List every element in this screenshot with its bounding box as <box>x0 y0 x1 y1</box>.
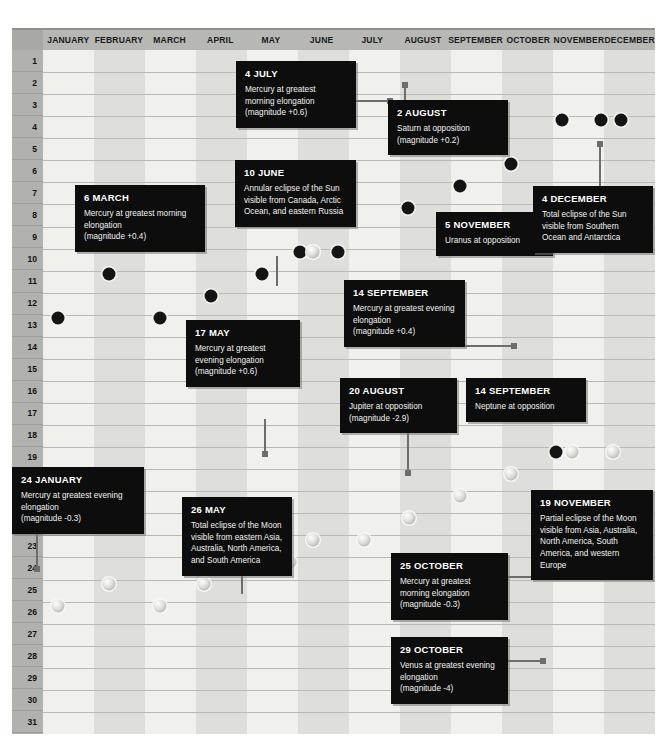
event-callout-dec-4[interactable]: 4 DECEMBERTotal eclipse of the Sun visib… <box>533 186 653 253</box>
event-callout-sep-14-mercury[interactable]: 14 SEPTEMBERMercury at greatest evening … <box>344 280 465 347</box>
full-moon-icon <box>358 534 371 547</box>
event-magnitude: (magnitude +0.4) <box>84 231 196 243</box>
day-number-23: 23 <box>12 535 43 557</box>
month-header-june: JUNE <box>296 30 347 50</box>
event-description: Venus at greatest evening elongation <box>400 660 499 683</box>
event-date-title: 26 MAY <box>191 504 283 515</box>
month-header-row: JANUARYFEBRUARYMARCHAPRILMAYJUNEJULYAUGU… <box>12 28 655 50</box>
new-moon-icon <box>595 114 608 127</box>
event-callout-may-26[interactable]: 26 MAYTotal eclipse of the Moon visible … <box>182 497 292 576</box>
event-callout-aug-2[interactable]: 2 AUGUSTSaturn at opposition(magnitude +… <box>388 100 508 155</box>
day-number-1: 1 <box>12 50 43 72</box>
day-number-19: 19 <box>12 447 43 469</box>
day-number-7: 7 <box>12 182 43 204</box>
day-number-3: 3 <box>12 94 43 116</box>
day-number-30: 30 <box>12 689 43 711</box>
event-callout-jun-10[interactable]: 10 JUNEAnnular eclipse of the Sun visibl… <box>235 160 356 227</box>
full-moon-icon <box>505 468 518 481</box>
event-date-title: 25 OCTOBER <box>400 560 499 571</box>
new-moon-icon <box>615 114 628 127</box>
full-moon-icon <box>566 446 579 459</box>
leader-line <box>407 427 409 473</box>
day-number-2: 2 <box>12 72 43 94</box>
header-corner-cell <box>12 30 43 50</box>
full-moon-icon <box>403 512 416 525</box>
day-number-27: 27 <box>12 623 43 645</box>
event-callout-jul-4[interactable]: 4 JULYMercury at greatest morning elonga… <box>236 61 356 128</box>
event-date-title: 4 JULY <box>245 68 347 79</box>
month-header-december: DECEMBER <box>604 30 655 50</box>
event-description: Uranus at opposition <box>445 235 544 247</box>
event-date-title: 14 SEPTEMBER <box>475 385 577 396</box>
event-callout-sep-14-neptune[interactable]: 14 SEPTEMBERNeptune at opposition <box>466 378 586 422</box>
day-number-25: 25 <box>12 579 43 601</box>
event-date-title: 10 JUNE <box>244 167 347 178</box>
event-magnitude: (magnitude +0.6) <box>245 107 347 119</box>
event-date-title: 6 MARCH <box>84 192 196 203</box>
day-number-9: 9 <box>12 226 43 248</box>
leader-endpoint-marker <box>597 141 603 147</box>
event-magnitude: (magnitude -4) <box>400 683 499 695</box>
day-number-12: 12 <box>12 293 43 315</box>
event-callout-oct-29[interactable]: 29 OCTOBERVenus at greatest evening elon… <box>391 637 508 704</box>
event-description: Total eclipse of the Moon visible from e… <box>191 520 283 567</box>
event-description: Mercury at greatest evening elongation <box>21 490 135 513</box>
month-header-april: APRIL <box>195 30 246 50</box>
leader-endpoint-marker <box>262 451 268 457</box>
month-header-may: MAY <box>246 30 297 50</box>
full-moon-icon <box>154 600 167 613</box>
new-moon-icon <box>505 158 518 171</box>
day-number-26: 26 <box>12 601 43 623</box>
month-header-march: MARCH <box>144 30 195 50</box>
full-moon-icon <box>103 578 116 591</box>
month-column-december <box>604 50 655 734</box>
month-header-july: JULY <box>347 30 398 50</box>
day-number-15: 15 <box>12 359 43 381</box>
new-moon-icon <box>294 246 307 259</box>
day-number-4: 4 <box>12 116 43 138</box>
event-date-title: 14 SEPTEMBER <box>353 287 456 298</box>
month-header-august: AUGUST <box>398 30 449 50</box>
month-header-november: NOVEMBER <box>554 30 605 50</box>
day-number-column: 1234567891011121314151617181920212223242… <box>12 50 43 734</box>
full-moon-icon <box>52 600 65 613</box>
event-date-title: 17 MAY <box>195 327 291 338</box>
event-callout-oct-25[interactable]: 25 OCTOBERMercury at greatest morning el… <box>391 553 508 620</box>
day-number-11: 11 <box>12 270 43 292</box>
event-description: Total eclipse of the Sun visible from So… <box>542 209 644 244</box>
event-description: Mercury at greatest morning elongation <box>84 208 196 231</box>
new-moon-icon <box>556 114 569 127</box>
day-number-5: 5 <box>12 138 43 160</box>
event-callout-may-17[interactable]: 17 MAYMercury at greatest evening elonga… <box>186 320 300 387</box>
event-magnitude: (magnitude -0.3) <box>400 599 499 611</box>
day-number-10: 10 <box>12 248 43 270</box>
day-number-28: 28 <box>12 645 43 667</box>
day-number-29: 29 <box>12 667 43 689</box>
full-moon-icon <box>607 446 620 459</box>
event-callout-aug-20[interactable]: 20 AUGUSTJupiter at opposition(magnitude… <box>340 378 457 433</box>
event-description: Annular eclipse of the Sun visible from … <box>244 183 347 218</box>
month-column-may <box>247 50 298 734</box>
event-date-title: 2 AUGUST <box>397 107 499 118</box>
leader-endpoint-marker <box>402 82 408 88</box>
month-header-february: FEBRUARY <box>94 30 145 50</box>
month-column-january <box>43 50 94 734</box>
event-magnitude: (magnitude -2.9) <box>349 413 448 425</box>
month-column-february <box>94 50 145 734</box>
event-description: Partial eclipse of the Moon visible from… <box>540 513 644 571</box>
day-number-6: 6 <box>12 160 43 182</box>
new-moon-icon <box>52 312 65 325</box>
event-callout-jan-24[interactable]: 24 JANUARYMercury at greatest evening el… <box>12 467 144 534</box>
event-callout-mar-6[interactable]: 6 MARCHMercury at greatest morning elong… <box>75 185 205 252</box>
event-description: Neptune at opposition <box>475 401 577 413</box>
month-header-january: JANUARY <box>43 30 94 50</box>
new-moon-icon <box>103 268 116 281</box>
leader-endpoint-marker <box>405 470 411 476</box>
event-callout-nov-19[interactable]: 19 NOVEMBERPartial eclipse of the Moon v… <box>531 490 653 580</box>
new-moon-icon <box>454 180 467 193</box>
full-moon-icon <box>307 534 320 547</box>
month-column-march <box>145 50 196 734</box>
event-description: Mercury at greatest morning elongation <box>400 576 499 599</box>
event-magnitude: (magnitude -0.3) <box>21 513 135 525</box>
event-date-title: 5 NOVEMBER <box>445 219 544 230</box>
